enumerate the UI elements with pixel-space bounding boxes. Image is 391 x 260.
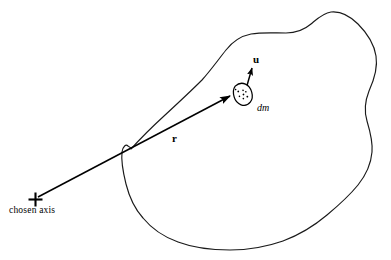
r-vector-line: [38, 96, 230, 197]
rigid-body-figure: [0, 0, 391, 260]
body-boundary-path: [122, 12, 377, 250]
mass-element-dm: [229, 80, 256, 108]
rigid-body-outline: [122, 12, 377, 250]
r-vector-arrow: [38, 96, 230, 197]
diagram-canvas: chosen axis r u dm: [0, 0, 391, 260]
r-vector-label: r: [172, 133, 177, 144]
chosen-axis-label: chosen axis: [9, 206, 55, 216]
u-vector-label: u: [253, 54, 259, 65]
mass-element-label: dm: [257, 103, 269, 113]
